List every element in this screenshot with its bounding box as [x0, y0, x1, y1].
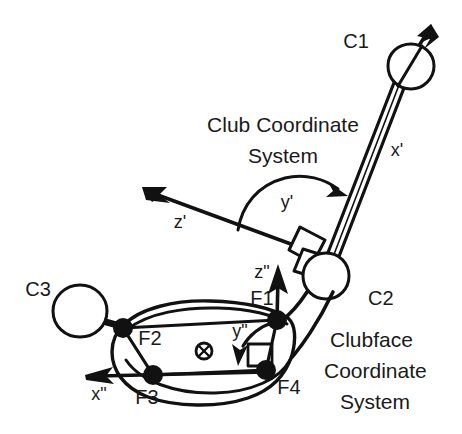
- caption-club-system-line1: Club Coordinate: [207, 113, 359, 136]
- node-dot-F4: [256, 360, 276, 380]
- label-x-double-prime: x": [91, 384, 106, 404]
- label-C2: C2: [368, 287, 394, 309]
- label-F3: F3: [135, 386, 158, 408]
- label-x-prime: x': [391, 140, 403, 160]
- caption-club-system-line2: System: [248, 144, 318, 167]
- label-z-prime: z': [174, 212, 186, 232]
- label-F4: F4: [277, 376, 300, 398]
- golf-club-coordinate-diagram: C1 C2 C3 F1 F2 F3 F4 x' z' y' x" z" y" C…: [0, 0, 462, 434]
- node-dot-F1: [267, 310, 287, 330]
- caption-clubface-system-line1: Clubface: [330, 328, 413, 351]
- label-C3: C3: [25, 278, 51, 300]
- label-C1: C1: [343, 30, 369, 52]
- label-F2: F2: [138, 327, 161, 349]
- label-z-double-prime: z": [254, 262, 269, 282]
- marker-C1-circle: [388, 44, 434, 89]
- node-dot-F3: [143, 365, 163, 385]
- marker-C2-circle: [303, 253, 349, 299]
- node-dot-F2: [113, 318, 133, 338]
- caption-clubface-system-line2: Coordinate: [324, 359, 427, 382]
- diagram-canvas: C1 C2 C3 F1 F2 F3 F4 x' z' y' x" z" y" C…: [0, 0, 462, 434]
- club-shaft: [322, 57, 414, 272]
- label-y-double-prime: y": [232, 321, 247, 341]
- circled-x-icon: [196, 343, 212, 359]
- caption-clubface-system-line3: System: [340, 390, 410, 413]
- label-F1: F1: [250, 287, 273, 309]
- label-y-prime: y': [281, 192, 293, 212]
